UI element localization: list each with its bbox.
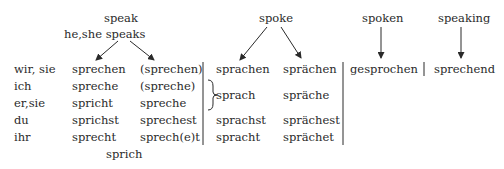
pronoun: er,sie: [14, 96, 45, 110]
pronoun: ich: [14, 79, 32, 93]
imperative: sprich: [106, 147, 142, 161]
present-indicative: spricht: [72, 96, 113, 110]
past-indicative: sprachst: [216, 113, 266, 127]
present-indicative: spreche: [72, 79, 118, 93]
past-indicative: spracht: [216, 130, 260, 144]
label-spoken: spoken: [362, 11, 403, 25]
present-indicative: sprechen: [72, 62, 126, 76]
past-indicative: sprach: [216, 88, 255, 102]
pronoun: wir, sie: [14, 62, 55, 76]
present-subjunctive: sprech(e)t: [140, 130, 200, 144]
past-subjunctive: spräche: [283, 88, 329, 102]
arrow-speaks-to-subjunctive: [130, 41, 154, 60]
label-spoke: spoke: [259, 11, 293, 25]
label-speaking: speaking: [438, 11, 490, 25]
past-indicative: sprachen: [216, 62, 270, 76]
present-participle: sprechend: [434, 62, 495, 76]
arrow-spoke-to-sprachen-umlaut: [281, 27, 301, 58]
label-he-she-speaks: he,she speaks: [64, 27, 145, 41]
past-subjunctive: sprächest: [283, 113, 340, 127]
present-subjunctive: (sprechen): [140, 62, 203, 76]
present-subjunctive: (spreche): [140, 79, 195, 93]
arrow-spoke-to-sprachen: [240, 27, 267, 60]
pronoun: du: [14, 113, 29, 127]
arrow-speaks-to-sprechen: [96, 41, 118, 60]
present-indicative: sprecht: [72, 130, 116, 144]
pronoun: ihr: [14, 130, 31, 144]
past-subjunctive: sprächen: [283, 62, 337, 76]
past-participle: gesprochen: [350, 62, 418, 76]
past-subjunctive: sprächet: [283, 130, 334, 144]
present-indicative: sprichst: [72, 113, 119, 127]
present-subjunctive: spreche: [140, 96, 186, 110]
present-subjunctive: sprechest: [140, 113, 197, 127]
label-speak: speak: [104, 11, 138, 25]
